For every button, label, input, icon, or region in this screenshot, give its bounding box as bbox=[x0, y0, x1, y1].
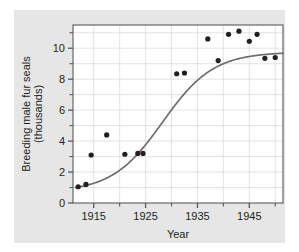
x-axis-title: Year bbox=[167, 228, 190, 240]
x-axis-tick-label: 1935 bbox=[185, 210, 209, 222]
chart-panel: 02468101915192519351945YearBreeding male… bbox=[14, 10, 285, 243]
data-point bbox=[104, 132, 109, 137]
data-point bbox=[205, 36, 210, 41]
figure-page: 02468101915192519351945YearBreeding male… bbox=[0, 0, 299, 252]
data-point bbox=[247, 39, 252, 44]
y-axis-title-line-1: Breeding male fur seals bbox=[20, 56, 32, 172]
x-axis-tick-label: 1945 bbox=[237, 210, 261, 222]
y-axis-tick-label: 4 bbox=[59, 135, 65, 147]
data-point bbox=[89, 152, 94, 157]
data-point bbox=[83, 182, 88, 187]
y-axis-tick-label: 2 bbox=[59, 166, 65, 178]
data-point bbox=[254, 32, 259, 37]
data-point bbox=[226, 32, 231, 37]
cut-off-caption-sliver bbox=[0, 0, 299, 9]
data-point bbox=[135, 151, 140, 156]
y-axis-tick-label: 0 bbox=[59, 197, 65, 209]
data-point bbox=[273, 55, 278, 60]
data-point bbox=[174, 71, 179, 76]
y-axis-tick-label: 8 bbox=[59, 73, 65, 85]
data-point bbox=[236, 29, 241, 34]
data-point bbox=[76, 184, 81, 189]
data-point bbox=[122, 152, 127, 157]
data-point bbox=[182, 70, 187, 75]
x-axis-tick-label: 1925 bbox=[133, 210, 157, 222]
data-point bbox=[262, 56, 267, 61]
plot-background bbox=[73, 25, 283, 203]
y-axis-tick-label: 6 bbox=[59, 104, 65, 116]
y-axis-tick-label: 10 bbox=[53, 42, 65, 54]
data-point bbox=[140, 151, 145, 156]
seal-population-scatter-chart: 02468101915192519351945YearBreeding male… bbox=[14, 10, 285, 243]
x-axis-tick-label: 1915 bbox=[81, 210, 105, 222]
data-point bbox=[216, 58, 221, 63]
y-axis-title-line-2: (thousands) bbox=[32, 85, 44, 143]
